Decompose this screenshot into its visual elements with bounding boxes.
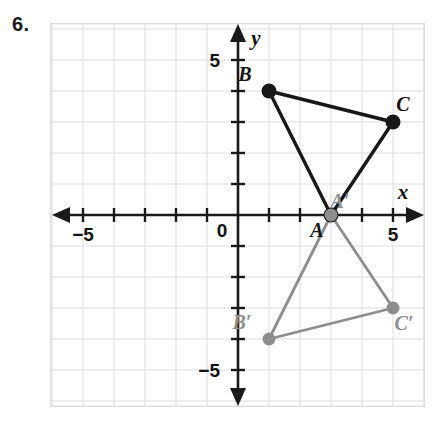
- problem-number: 6.: [12, 13, 30, 36]
- vertex-label-B: B: [237, 63, 251, 85]
- y-axis-name: y: [248, 26, 261, 50]
- origin-label: 0: [217, 220, 228, 241]
- y-axis-arrow-down: [230, 388, 246, 406]
- vertex-label-C: C: [396, 93, 410, 115]
- x-axis-arrow-left: [52, 207, 70, 223]
- vertex-label-A-prime: A′: [329, 190, 350, 212]
- vertex-label-A: A: [308, 219, 323, 241]
- vertex-label-B-prime: B′: [232, 311, 252, 333]
- y-tick-label--5: −5: [198, 360, 220, 381]
- y-tick-label-5: 5: [209, 50, 220, 71]
- axis-names: yx: [248, 26, 408, 204]
- x-axis-arrow-right: [406, 207, 424, 223]
- y-axis-arrow-up: [230, 24, 246, 42]
- x-tick-label--5: −5: [72, 224, 94, 245]
- coordinate-plane-svg: 0−555−5 yx ABCA′B′C′: [50, 23, 425, 407]
- x-axis-name: x: [397, 180, 409, 204]
- x-tick-label-5: 5: [388, 224, 399, 245]
- vertex-point-B-prime: [263, 333, 276, 346]
- vertex-label-C-prime: C′: [395, 312, 414, 334]
- vertex-point-B: [262, 84, 277, 99]
- vertex-point-C: [386, 115, 401, 130]
- coordinate-graph-panel: 0−555−5 yx ABCA′B′C′: [50, 23, 425, 407]
